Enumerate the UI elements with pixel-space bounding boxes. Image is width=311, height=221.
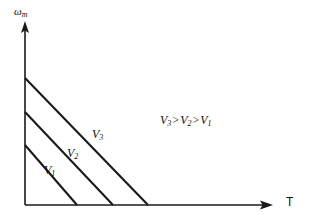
curve-label-v1-subscript: 1 <box>51 169 55 178</box>
y-axis-label: ωm <box>14 6 27 19</box>
curve-label-v2: V2 <box>67 147 78 161</box>
curve-label-v3: V3 <box>92 128 103 142</box>
annotation-operator-2: > <box>191 113 200 127</box>
curve-label-v1: V1 <box>44 164 55 178</box>
curve-label-v2-subscript: 2 <box>74 152 78 161</box>
x-axis-label: T <box>286 196 293 208</box>
annotation-operator-1: > <box>171 113 180 127</box>
torque-speed-characteristic-figure: ωm T V3 V2 V1 V3>V2>V1 <box>0 0 311 221</box>
curve-v3 <box>25 78 148 205</box>
annotation-v1-subscript: 1 <box>208 119 212 128</box>
axes-group <box>21 21 273 210</box>
plot-canvas <box>0 0 311 221</box>
curves-group <box>25 78 148 205</box>
inequality-annotation: V3>V2>V1 <box>160 114 212 128</box>
y-axis-symbol: ω <box>14 5 22 17</box>
y-axis-subscript: m <box>22 10 28 19</box>
annotation-v1: V <box>200 113 207 127</box>
curve-label-v3-subscript: 3 <box>99 133 103 142</box>
